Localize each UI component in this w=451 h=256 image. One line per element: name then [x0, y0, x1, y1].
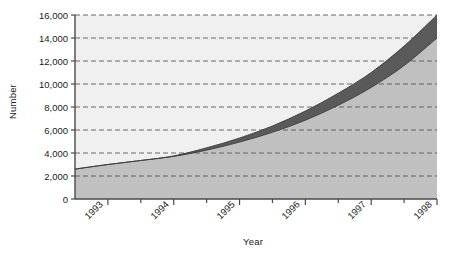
- x-axis-tick-label: 1997: [345, 199, 368, 222]
- x-axis-tick-label: 1993: [82, 199, 105, 222]
- x-axis-tick-label: 1998: [411, 199, 434, 222]
- y-axis-title: Number: [7, 72, 18, 132]
- x-axis-tick-labels: 199319941995199619971998: [0, 0, 451, 256]
- x-axis-tick-label: 1995: [214, 199, 237, 222]
- x-axis-title: Year: [223, 236, 283, 247]
- x-axis-tick-label: 1994: [148, 199, 171, 222]
- x-axis-tick-label: 1996: [279, 199, 302, 222]
- area-chart: 02,0004,0006,0008,00010,00012,00014,0001…: [0, 0, 451, 256]
